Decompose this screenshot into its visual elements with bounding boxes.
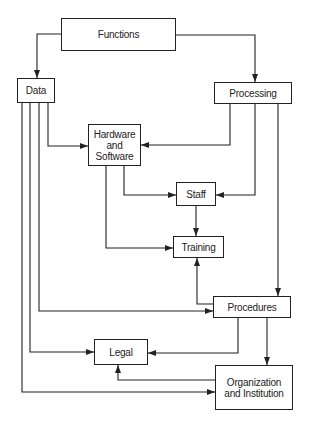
edge-functions-data (37, 34, 61, 78)
edge-processing-hardware (141, 104, 230, 145)
node-processing-label: Processing (229, 88, 276, 99)
node-data-label: Data (26, 85, 46, 96)
edge-data-hardware (48, 103, 88, 146)
node-procedures: Procedures (213, 296, 291, 318)
node-training-label: Training (181, 242, 215, 253)
edge-data-legal (30, 103, 94, 352)
node-legal: Legal (94, 339, 148, 365)
node-functions: Functions (61, 18, 176, 51)
node-organization-institution-label: Organization and Institution (224, 377, 283, 399)
edge-organization-legal (118, 365, 215, 380)
node-functions-label: Functions (98, 29, 140, 40)
edge-processing-staff (216, 104, 255, 195)
edge-procedures-legal (148, 318, 238, 353)
node-organization-institution: Organization and Institution (215, 365, 293, 410)
node-data: Data (17, 78, 55, 103)
edge-functions-processing (176, 35, 255, 82)
node-training: Training (173, 236, 224, 258)
node-hardware-software-label: Hardware and Software (94, 129, 136, 162)
edge-hardware-staff (124, 166, 176, 195)
node-hardware-software: Hardware and Software (88, 124, 141, 166)
edge-hardware-training (106, 166, 173, 248)
node-processing: Processing (214, 82, 292, 104)
node-procedures-label: Procedures (227, 302, 276, 313)
edge-procedures-training (197, 258, 213, 304)
node-staff-label: Staff (186, 189, 205, 200)
node-legal-label: Legal (109, 347, 132, 358)
node-staff: Staff (176, 182, 216, 206)
